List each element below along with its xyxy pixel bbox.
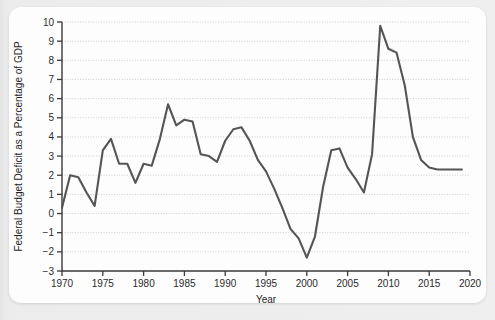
x-tick-label-2000: 2000 [296,278,319,289]
y-tick-label-5: 5 [48,112,54,123]
screenshot-root: −3−2−1012345678910 197019751980198519901… [0,0,495,320]
y-tick-label-3: 3 [48,151,54,162]
y-tick-label-1: 1 [48,189,54,200]
y-tick-labels-group: −3−2−1012345678910 [43,17,55,277]
x-tick-label-1975: 1975 [92,278,115,289]
y-tick-label-8: 8 [48,55,54,66]
x-tick-label-1985: 1985 [173,278,196,289]
line-chart: −3−2−1012345678910 197019751980198519901… [0,0,495,320]
x-tick-label-1995: 1995 [255,278,278,289]
y-tick-label-0: 0 [48,208,54,219]
x-tick-label-2020: 2020 [459,278,482,289]
y-tick-label--3: −3 [43,266,55,277]
x-tick-label-2015: 2015 [418,278,441,289]
chart-container: −3−2−1012345678910 197019751980198519901… [0,0,495,320]
y-axis-title: Federal Budget Deficit as a Percentage o… [13,41,24,251]
y-tick-label-9: 9 [48,36,54,47]
y-tick-label-2: 2 [48,170,54,181]
x-tick-label-1990: 1990 [214,278,237,289]
gridlines-group [62,22,470,252]
y-tick-label--2: −2 [43,246,55,257]
axes-group [62,22,470,271]
x-tick-label-1980: 1980 [132,278,155,289]
x-tick-labels-group: 1970197519801985199019952000200520102015… [51,278,482,289]
x-tick-label-1970: 1970 [51,278,74,289]
x-tick-label-2005: 2005 [336,278,359,289]
y-tick-label--1: −1 [43,227,55,238]
x-axis-title: Year [256,294,277,305]
y-tick-label-7: 7 [48,74,54,85]
axis-spines [62,22,470,271]
x-tick-label-2010: 2010 [377,278,400,289]
y-tick-label-4: 4 [48,131,54,142]
y-tick-label-6: 6 [48,93,54,104]
y-tick-label-10: 10 [43,17,55,28]
